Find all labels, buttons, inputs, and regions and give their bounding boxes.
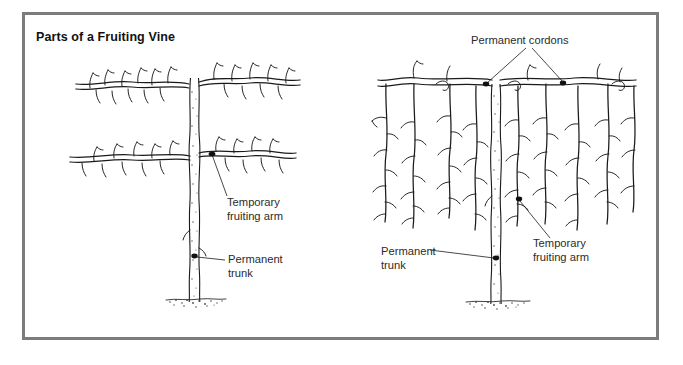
left-soil-line <box>166 299 226 308</box>
right-permanent-trunk <box>485 84 501 304</box>
callout-line-1: Permanent <box>228 253 283 265</box>
left-upper-arm-right <box>199 63 300 99</box>
right-hanging-canes-left <box>372 84 488 230</box>
right-cordon-node-right <box>560 81 566 86</box>
callout-left-permanent-trunk: Permanent trunk <box>228 252 283 280</box>
right-cordons-leader-left <box>487 48 526 83</box>
left-arm-leader-line <box>213 156 228 196</box>
callout-line-1: Temporary <box>227 196 280 208</box>
callout-line-2: fruiting arm <box>533 251 589 263</box>
right-hanging-canes-right <box>505 84 635 230</box>
left-lower-arm-left <box>70 141 190 177</box>
right-cordons-leader-right <box>532 48 563 82</box>
left-trunk-leader-line <box>197 257 225 260</box>
left-arm-node-marker <box>209 152 216 157</box>
callout-right-permanent-cordons: Permanent cordons <box>471 33 569 47</box>
callout-line-2: trunk <box>228 267 253 279</box>
callout-line-2: fruiting arm <box>227 210 283 222</box>
right-arm-node-marker <box>516 197 522 202</box>
callout-right-permanent-trunk: Permanent trunk <box>381 244 436 272</box>
left-upper-arm-left <box>76 67 189 104</box>
callout-line-1: Permanent <box>381 245 436 257</box>
callout-right-temporary-fruiting-arm: Temporary fruiting arm <box>533 236 589 264</box>
callout-line-1: Permanent cordons <box>471 34 569 46</box>
figure-canvas: Parts of a Fruiting Vine <box>0 0 683 365</box>
right-soil-line <box>466 301 530 310</box>
callout-line-1: Temporary <box>533 237 586 249</box>
vine-illustration <box>0 0 683 365</box>
right-trunk-leader-line <box>430 250 494 258</box>
left-trunk-node-marker <box>191 254 197 259</box>
callout-left-temporary-fruiting-arm: Temporary fruiting arm <box>227 195 283 223</box>
callout-line-2: trunk <box>381 259 406 271</box>
left-permanent-trunk <box>183 78 206 302</box>
